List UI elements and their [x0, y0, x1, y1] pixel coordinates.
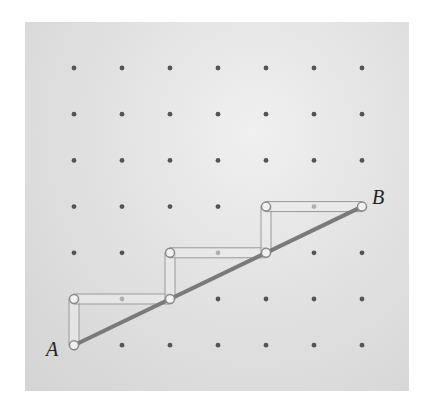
grid-dot [264, 158, 269, 163]
grid-dot [264, 66, 269, 71]
grid-dot [120, 158, 125, 163]
grid-dot [216, 158, 221, 163]
grid-dot [312, 297, 317, 302]
grid-dot [168, 343, 173, 348]
peg [262, 248, 271, 257]
grid-dot [72, 66, 77, 71]
peg [262, 202, 271, 211]
grid-dot [312, 66, 317, 71]
grid-dot [216, 297, 221, 302]
grid-dot [360, 250, 365, 255]
staircase-segment [170, 248, 266, 258]
grid-dot [312, 158, 317, 163]
grid-dot [120, 66, 125, 71]
grid-dot [312, 343, 317, 348]
grid-dot [72, 250, 77, 255]
staircase-segment [266, 202, 362, 212]
peg [166, 248, 175, 257]
grid-dot [168, 66, 173, 71]
grid-dot [360, 112, 365, 117]
diagram-canvas [0, 0, 428, 407]
diagonal-line-ab [74, 207, 362, 346]
grid-dot [72, 158, 77, 163]
staircase-segment [74, 294, 170, 304]
grid-dot [168, 112, 173, 117]
grid-dot [264, 343, 269, 348]
grid-dot [120, 250, 125, 255]
grid-dot [360, 158, 365, 163]
grid-dot [312, 250, 317, 255]
label-b: B [372, 186, 384, 209]
grid-dot [168, 204, 173, 209]
grid-dot [72, 204, 77, 209]
staircase-segment [69, 299, 79, 345]
label-a: A [46, 338, 58, 361]
grid-dot [72, 112, 77, 117]
grid-dot [264, 112, 269, 117]
grid-dot [120, 343, 125, 348]
grid-dot [120, 204, 125, 209]
grid-dot [360, 66, 365, 71]
staircase-segment [165, 253, 175, 299]
peg [358, 202, 367, 211]
peg [70, 341, 79, 350]
grid-dot [216, 204, 221, 209]
grid-dot [216, 112, 221, 117]
staircase-segment [261, 207, 271, 253]
grid-dot [216, 66, 221, 71]
grid-dot [360, 297, 365, 302]
grid-dot [264, 297, 269, 302]
grid-dot [168, 158, 173, 163]
grid-dot [312, 112, 317, 117]
grid-dot [216, 343, 221, 348]
grid-dot [360, 343, 365, 348]
peg [166, 295, 175, 304]
staircase-path [69, 202, 362, 346]
peg [70, 295, 79, 304]
grid-dot [120, 112, 125, 117]
